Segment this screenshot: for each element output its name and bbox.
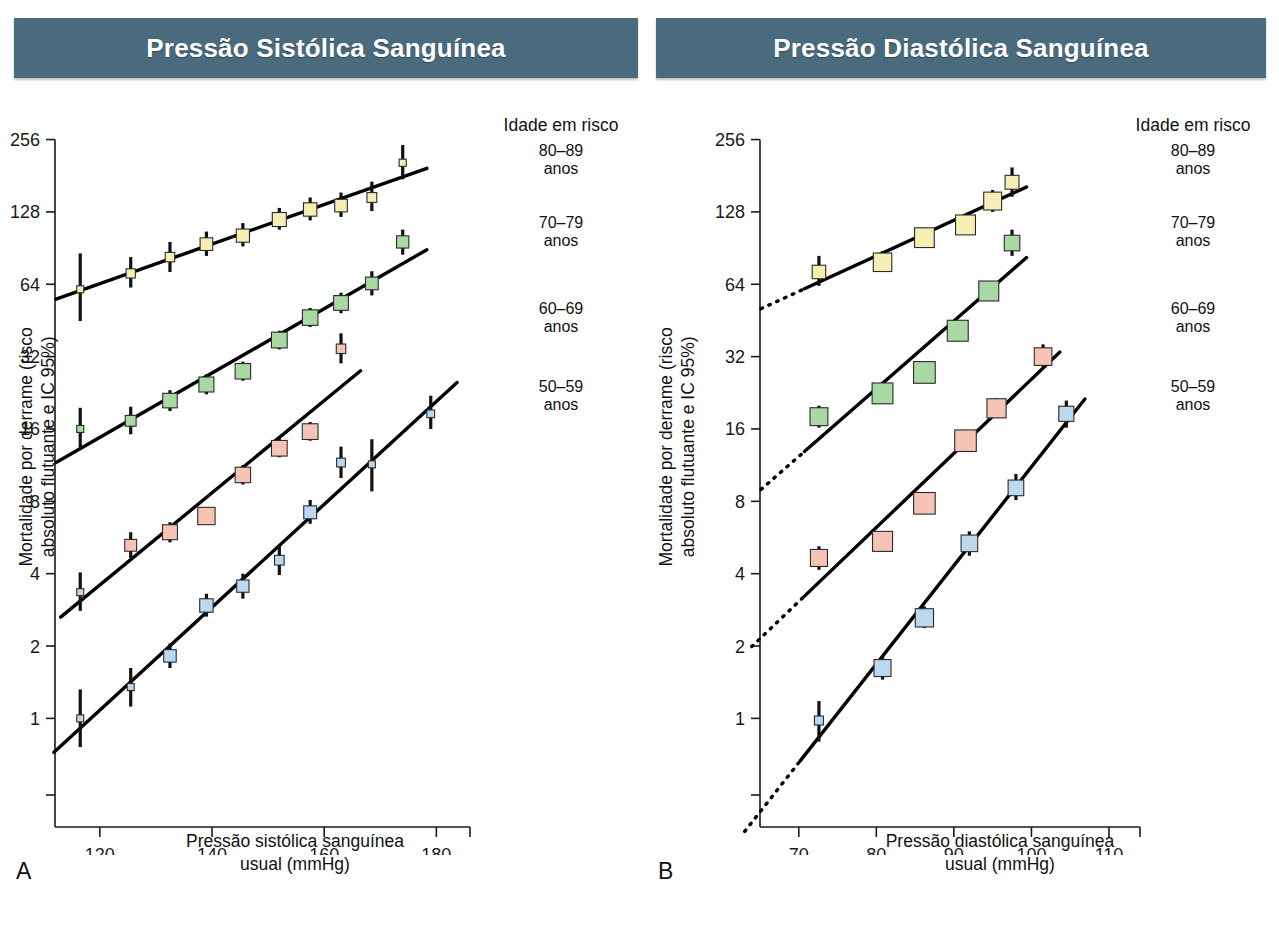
data-point-marker <box>165 252 174 261</box>
panel-b-banner: Pressão Diastólica Sanguínea <box>656 18 1266 78</box>
panel-a-plot: 1248163264128256120140160180 <box>0 95 640 855</box>
data-point-marker <box>164 650 176 662</box>
fit-line <box>54 382 457 752</box>
data-point-marker <box>304 506 317 519</box>
data-point-marker <box>366 277 379 290</box>
fit-line-extrapolated <box>761 451 804 489</box>
data-point-marker <box>1034 348 1052 366</box>
y-tick-label: 64 <box>725 275 745 295</box>
data-point-marker <box>914 492 936 514</box>
panel-b-banner-title: Pressão Diastólica Sanguínea <box>773 33 1149 64</box>
data-point-marker <box>915 228 935 248</box>
legend-entry-70-79: 70–79 anos <box>1118 214 1268 250</box>
data-point-marker <box>335 199 348 212</box>
panel-a-letter: A <box>16 860 31 883</box>
fit-line <box>61 371 361 617</box>
fit-line <box>802 352 1060 598</box>
y-tick-label: 64 <box>20 275 40 295</box>
data-point-marker <box>303 203 316 216</box>
legend-title: Idade em risco <box>486 115 636 137</box>
data-point-marker <box>198 507 215 524</box>
data-point-marker <box>337 458 346 467</box>
legend-title: Idade em risco <box>1118 115 1268 137</box>
data-point-marker <box>272 212 286 226</box>
data-point-marker <box>235 467 250 482</box>
data-point-marker <box>77 715 84 722</box>
y-tick-label: 2 <box>30 637 40 657</box>
data-point-marker <box>1005 175 1019 189</box>
data-point-marker <box>873 253 891 271</box>
data-point-marker <box>947 320 968 341</box>
y-tick-label: 128 <box>715 202 745 222</box>
panel-b-letter: B <box>658 860 673 883</box>
data-point-marker <box>427 410 435 418</box>
series-5059 <box>54 382 457 752</box>
y-tick-label: 1 <box>30 709 40 729</box>
data-point-marker <box>368 461 375 468</box>
fit-line <box>800 399 1084 761</box>
panel-b-plot: 1248163264128256708090100110 <box>640 95 1279 855</box>
data-point-marker <box>235 364 250 379</box>
data-point-marker <box>125 415 136 426</box>
y-tick-label: 256 <box>715 130 745 150</box>
data-point-marker <box>199 377 214 392</box>
data-point-marker <box>810 408 828 426</box>
y-tick-label: 1 <box>735 709 745 729</box>
data-point-marker <box>271 440 287 456</box>
y-tick-label: 2 <box>735 637 745 657</box>
data-point-marker <box>979 281 999 301</box>
data-point-marker <box>200 238 213 251</box>
data-point-marker <box>125 539 137 551</box>
panel-b-x-axis-label: Pressão diastólica sanguínea usual (mmHg… <box>835 830 1165 876</box>
x-tick-label: 70 <box>789 845 809 855</box>
data-point-marker <box>237 580 249 592</box>
data-point-marker <box>336 344 345 353</box>
data-point-marker <box>810 549 827 566</box>
legend-entry-50-59: 50–59 anos <box>1118 378 1268 414</box>
y-tick-label: 8 <box>735 492 745 512</box>
data-point-marker <box>987 399 1006 418</box>
panel-a-banner: Pressão Sistólica Sanguínea <box>14 18 638 78</box>
data-point-marker <box>961 535 978 552</box>
fit-line-extrapolated <box>761 289 804 309</box>
data-point-marker <box>127 684 134 691</box>
panel-a-y-axis-label: Mortalidade por derrame (risco absoluto … <box>16 297 60 597</box>
data-point-marker <box>126 269 135 278</box>
figure-root: Pressão Sistólica Sanguínea Pressão Dias… <box>0 0 1279 944</box>
series-6069 <box>61 333 361 617</box>
panel-b-y-axis-label: Mortalidade por derrame (risco absoluto … <box>656 297 700 597</box>
data-point-marker <box>274 555 284 565</box>
data-point-marker <box>984 192 1002 210</box>
data-point-marker <box>872 383 893 404</box>
data-point-marker <box>1008 480 1024 496</box>
data-point-marker <box>334 296 349 311</box>
series-7079 <box>761 230 1027 490</box>
legend-entry-50-59: 50–59 anos <box>486 378 636 414</box>
data-point-marker <box>955 430 977 452</box>
data-point-marker <box>814 716 823 725</box>
y-tick-label: 16 <box>725 419 745 439</box>
data-point-marker <box>236 229 249 242</box>
legend-entry-80-89: 80–89 anos <box>486 142 636 178</box>
data-point-marker <box>399 159 406 166</box>
legend-entry-60-69: 60–69 anos <box>1118 300 1268 336</box>
y-tick-label: 256 <box>10 130 40 150</box>
legend-entry-80-89: 80–89 anos <box>1118 142 1268 178</box>
panel-b: 1248163264128256708090100110 Mortalidade… <box>640 95 1279 885</box>
caption-strip <box>0 930 1279 944</box>
y-tick-label: 4 <box>735 564 745 584</box>
fit-line-extrapolated <box>745 761 801 832</box>
data-point-marker <box>812 265 825 278</box>
legend-entry-60-69: 60–69 anos <box>486 300 636 336</box>
data-point-marker <box>77 589 84 596</box>
data-point-marker <box>302 310 318 326</box>
panel-a-legend: Idade em risco <box>486 115 636 137</box>
panel-b-legend: Idade em risco <box>1118 115 1268 137</box>
data-point-marker <box>915 609 933 627</box>
panel-a: 1248163264128256120140160180 Mortalidade… <box>0 95 640 885</box>
data-point-marker <box>163 525 178 540</box>
y-tick-label: 32 <box>725 347 745 367</box>
data-point-marker <box>874 660 891 677</box>
x-tick-label: 120 <box>85 845 115 855</box>
data-point-marker <box>873 531 893 551</box>
